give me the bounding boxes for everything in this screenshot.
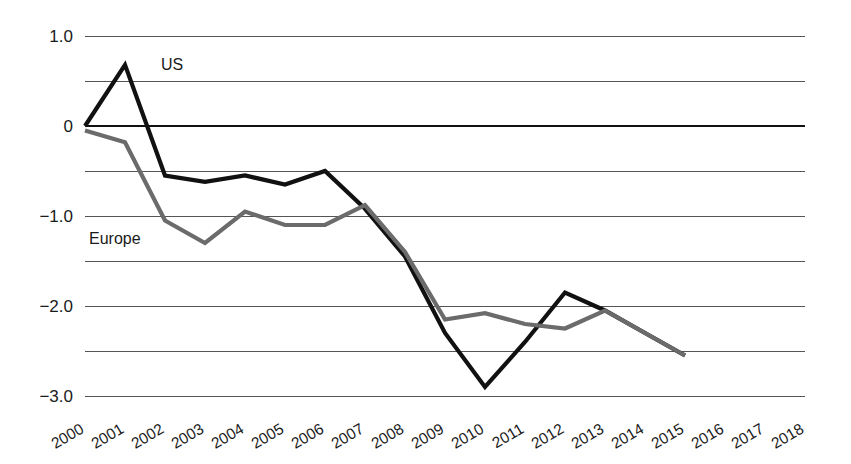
x-tick-label: 2009 bbox=[408, 420, 446, 452]
y-tick-label: 1.0 bbox=[49, 27, 73, 46]
x-tick-label: 2013 bbox=[568, 420, 606, 452]
x-tick-label: 2008 bbox=[368, 420, 406, 452]
y-tick-label: −2.0 bbox=[39, 297, 73, 316]
chart-container: 1.00−1.0−2.0−3.0 20002001200220032004200… bbox=[0, 0, 851, 464]
x-tick-label: 2000 bbox=[48, 420, 87, 452]
series-label-europe: Europe bbox=[89, 230, 141, 247]
x-tick-label: 2014 bbox=[608, 420, 647, 452]
x-axis-tick-labels: 2000200120022003200420052006200720082009… bbox=[48, 420, 806, 452]
series-group bbox=[85, 65, 685, 387]
x-tick-label: 2016 bbox=[688, 420, 726, 452]
x-tick-label: 2011 bbox=[489, 420, 526, 451]
x-tick-label: 2002 bbox=[128, 420, 166, 452]
x-tick-label: 2003 bbox=[168, 420, 206, 452]
x-tick-label: 2015 bbox=[648, 420, 686, 452]
y-axis-tick-labels: 1.00−1.0−2.0−3.0 bbox=[39, 27, 73, 406]
x-tick-label: 2004 bbox=[208, 420, 247, 452]
y-tick-label: 0 bbox=[64, 117, 73, 136]
x-tick-label: 2007 bbox=[328, 420, 366, 452]
x-tick-label: 2006 bbox=[288, 420, 326, 452]
x-tick-label: 2012 bbox=[528, 420, 566, 452]
x-tick-label: 2017 bbox=[728, 420, 766, 452]
line-chart: 1.00−1.0−2.0−3.0 20002001200220032004200… bbox=[0, 0, 851, 464]
x-tick-label: 2010 bbox=[448, 420, 487, 452]
x-tick-label: 2001 bbox=[88, 420, 126, 452]
series-annotation-group: USEurope bbox=[89, 56, 183, 247]
y-tick-label: −1.0 bbox=[39, 207, 73, 226]
y-tick-label: −3.0 bbox=[39, 387, 73, 406]
gridline-group bbox=[85, 36, 805, 396]
x-tick-label: 2018 bbox=[768, 420, 806, 452]
series-line-europe bbox=[85, 131, 685, 356]
series-label-us: US bbox=[161, 56, 183, 73]
x-tick-label: 2005 bbox=[248, 420, 286, 452]
